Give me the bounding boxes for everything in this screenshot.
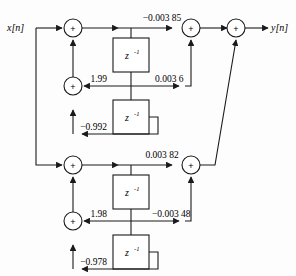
- delay-exponent-s2-2: -1: [134, 245, 139, 252]
- delay-exponent-s2-1: -1: [134, 185, 139, 192]
- delay-label-s1-1: z: [124, 50, 129, 61]
- adder-s2-fb-symbol: +: [70, 217, 75, 227]
- adder-s2-input-symbol: +: [70, 161, 75, 171]
- delay-label-s2-2: z: [124, 247, 129, 258]
- coefficient-s2-feedforward-mid: −0.003 48: [152, 209, 191, 219]
- coefficient-s1-feedforward-top: −0.003 85: [143, 13, 182, 23]
- diagram-canvas: + + + + + + + x[n] y[n] z -1 z -1 z -1 z…: [0, 0, 296, 276]
- coefficient-s2-feedforward-top: 0.003 82: [145, 150, 179, 160]
- adder-s1-fb-symbol: +: [70, 82, 75, 92]
- wire-input-branch-to-section2: [36, 28, 62, 165]
- wire-s2out-diagonal-to-final-adder: [200, 40, 236, 165]
- adder-s2-out-symbol: +: [188, 161, 193, 171]
- input-label: x[n]: [6, 22, 24, 33]
- coefficient-s2-feedback-second: −0.978: [80, 257, 107, 267]
- delay-exponent-s1-2: -1: [134, 110, 139, 117]
- coefficient-s1-feedforward-mid: 0.003 6: [155, 74, 184, 84]
- delay-block-s1-2: [113, 100, 149, 134]
- adder-final-symbol: +: [233, 24, 238, 34]
- signal-flow-diagram: + + + + + + + x[n] y[n] z -1 z -1 z -1 z…: [0, 0, 296, 276]
- adder-s1-out-symbol: +: [188, 24, 193, 34]
- coefficient-s2-feedback-first: 1.98: [90, 209, 107, 219]
- wire-0p0036-up-to-adder-s1-out: [185, 40, 191, 86]
- output-label: y[n]: [270, 22, 288, 33]
- delay-block-s1-1: [113, 38, 149, 72]
- delay-exponent-s1-1: -1: [134, 48, 139, 55]
- delay-label-s2-1: z: [124, 187, 129, 198]
- adder-s1-input-symbol: +: [70, 24, 75, 34]
- coefficient-s1-feedback-second: −0.992: [80, 122, 107, 132]
- delay-label-s1-2: z: [124, 112, 129, 123]
- coefficient-s1-feedback-first: 1.99: [90, 74, 107, 84]
- delay-block-s2-1: [113, 175, 149, 209]
- delay-block-s2-2: [113, 235, 149, 269]
